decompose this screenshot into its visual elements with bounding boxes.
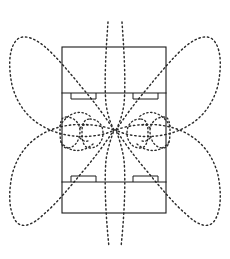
figure-background: [0, 0, 230, 259]
figure-container: Antenna radiation pattern over slotted r…: [0, 0, 230, 259]
radiation-pattern-figure: [0, 0, 230, 259]
